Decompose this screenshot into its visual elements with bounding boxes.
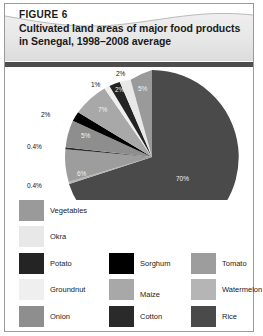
pie-slices	[65, 70, 239, 204]
chart-legend: Vegetables Okra Potato Groundnut Onion	[5, 200, 253, 331]
legend-label-sorghum: Sorghum	[140, 259, 170, 268]
pie-label-watermelon: 0.4%	[27, 182, 42, 189]
legend-swatch-vegetables	[19, 200, 44, 221]
legend-swatch-okra	[19, 226, 44, 247]
legend-label-watermelon: Watermelon	[222, 285, 259, 294]
figure-container: FIGURE 6 Cultivated land areas of major …	[0, 0, 259, 336]
pie-label-okra: 2%	[116, 70, 125, 77]
legend-swatch-potato	[19, 253, 44, 274]
legend-label-groundnut: Groundnut	[50, 285, 85, 294]
legend-label-tomato: Tomato	[222, 259, 247, 268]
legend-label-maize: Maize	[140, 290, 160, 299]
legend-label-vegetables: Vegetables	[50, 206, 87, 215]
legend-swatch-groundnut	[19, 279, 44, 300]
pie-label-sorghum: 2%	[41, 111, 50, 118]
legend-label-cotton: Cotton	[140, 312, 162, 321]
legend-label-potato: Potato	[50, 259, 72, 268]
pie-label-potato: 2%	[115, 86, 124, 93]
pie-label-maize: 7%	[98, 106, 107, 113]
legend-swatch-maize	[109, 279, 134, 300]
header-text-block: FIGURE 6 Cultivated land areas of major …	[19, 9, 249, 48]
legend-label-okra: Okra	[50, 232, 66, 241]
pie-label-groundnut: 1%	[91, 81, 100, 88]
figure-number: FIGURE 6	[19, 9, 249, 21]
pie-label-cotton: 0.4%	[27, 143, 42, 150]
pie-label-tomato: 6%	[77, 170, 86, 177]
figure-title-line-1: Cultivated land areas of major food prod…	[19, 22, 249, 35]
pie-chart	[5, 67, 253, 204]
legend-swatch-sorghum	[109, 253, 134, 274]
legend-swatch-rice	[191, 306, 216, 327]
figure-title-line-2: in Senegal, 1998–2008 average	[19, 35, 249, 48]
pie-label-rice: 70%	[176, 175, 189, 182]
legend-label-onion: Onion	[50, 312, 70, 321]
legend-swatch-watermelon	[191, 279, 216, 300]
legend-swatch-tomato	[191, 253, 216, 274]
pie-label-onion: 5%	[81, 132, 90, 139]
pie-label-vegetables: 5%	[138, 85, 147, 92]
legend-swatch-onion	[19, 306, 44, 327]
figure-header: FIGURE 6 Cultivated land areas of major …	[5, 4, 253, 61]
legend-swatch-cotton	[109, 306, 134, 327]
legend-label-rice: Rice	[222, 312, 237, 321]
pie-chart-plot-area: 70% 0.4% 6% 0.4% 5% 2% 7% 1% 2% 2% 5%	[5, 67, 253, 204]
